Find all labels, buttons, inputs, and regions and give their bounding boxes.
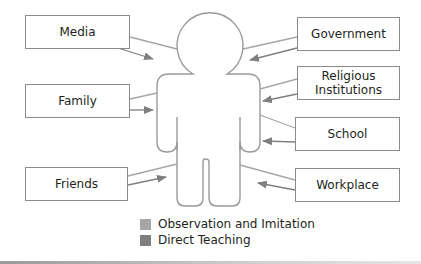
legend-item-teaching: Direct Teaching xyxy=(140,232,315,248)
friends-observation-line xyxy=(128,164,177,176)
person-icon xyxy=(157,13,260,206)
workplace-observation-line xyxy=(240,165,295,180)
school-teaching-arrow xyxy=(263,141,295,142)
observation-swatch-icon xyxy=(140,219,151,230)
legend: Observation and Imitation Direct Teachin… xyxy=(140,216,315,248)
religious-institutions-box: Religious Institutions xyxy=(297,66,400,100)
media-label: Media xyxy=(59,25,95,39)
friends-teaching-arrow xyxy=(128,177,166,185)
socialization-diagram: Media Family Friends Government Religiou… xyxy=(0,0,421,264)
workplace-label: Workplace xyxy=(316,178,379,192)
legend-item-observation: Observation and Imitation xyxy=(140,216,315,232)
family-label: Family xyxy=(58,94,97,108)
religious-label-line2: Institutions xyxy=(315,83,382,97)
religious-label-line1: Religious xyxy=(322,69,376,83)
friends-box: Friends xyxy=(25,167,128,201)
workplace-teaching-arrow xyxy=(258,183,295,190)
government-box: Government xyxy=(297,17,400,51)
religious-observation-line xyxy=(260,79,297,89)
government-label: Government xyxy=(311,27,386,41)
family-box: Family xyxy=(25,84,130,118)
religious-teaching-arrow xyxy=(263,94,297,101)
school-box: School xyxy=(295,117,400,151)
friends-label: Friends xyxy=(55,177,98,191)
media-teaching-arrow xyxy=(118,48,153,59)
media-box: Media xyxy=(25,15,130,49)
legend-label-teaching: Direct Teaching xyxy=(158,233,251,247)
media-observation-line xyxy=(130,37,177,49)
government-observation-line xyxy=(243,37,297,49)
legend-label-observation: Observation and Imitation xyxy=(158,217,315,231)
school-label: School xyxy=(328,127,368,141)
family-observation-line xyxy=(130,93,157,99)
school-observation-line xyxy=(260,115,295,128)
workplace-box: Workplace xyxy=(295,168,400,202)
government-teaching-arrow xyxy=(250,48,297,60)
teaching-swatch-icon xyxy=(140,235,151,246)
